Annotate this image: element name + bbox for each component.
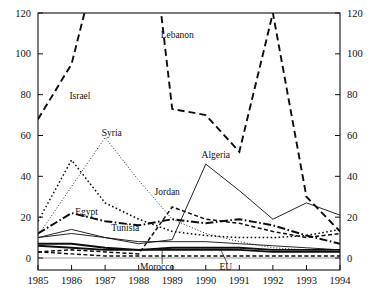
year-axis-tick-label: 1986 xyxy=(61,275,82,286)
right-axis-tick-label: 100 xyxy=(347,48,363,59)
left-axis-tick-label: 0 xyxy=(26,253,31,264)
left-axis-tick-label: 20 xyxy=(21,212,32,223)
series-label-jordan: Jordan xyxy=(155,187,181,197)
year-axis: 1985198619871988198919901991199219931994 xyxy=(28,265,352,286)
right-value-axis: 020406080100120 xyxy=(335,8,363,264)
series-label-tunisia: Tunisia xyxy=(111,223,140,233)
left-axis-tick-label: 100 xyxy=(15,48,31,59)
right-axis-tick-label: 0 xyxy=(347,253,352,264)
series-label-eu: EU xyxy=(220,262,233,272)
year-axis-tick-label: 1988 xyxy=(128,275,149,286)
year-axis-tick-label: 1992 xyxy=(262,275,283,286)
series-line-israel xyxy=(38,160,340,238)
series-line-egypt xyxy=(38,213,340,244)
series-label-egypt: Egypt xyxy=(75,207,98,217)
series-label-syria: Syria xyxy=(102,128,123,138)
year-axis-tick-label: 1994 xyxy=(330,275,352,286)
year-axis-tick-label: 1989 xyxy=(162,275,183,286)
series-label-lebanon: Lebanon xyxy=(161,30,194,40)
year-axis-tick-label: 1987 xyxy=(95,275,116,286)
left-axis-tick-label: 80 xyxy=(21,89,32,100)
year-axis-tick-label: 1993 xyxy=(296,275,317,286)
line-chart: 020406080100120 020406080100120 19851986… xyxy=(0,0,378,300)
right-axis-tick-label: 20 xyxy=(347,212,358,223)
left-axis-tick-label: 40 xyxy=(21,171,32,182)
right-axis-tick-label: 80 xyxy=(347,89,358,100)
left-axis-tick-label: 120 xyxy=(15,8,31,19)
series-label-morocco: Morocco xyxy=(140,262,175,272)
chart-canvas: 020406080100120 020406080100120 19851986… xyxy=(0,0,378,300)
right-axis-tick-label: 40 xyxy=(347,171,358,182)
year-axis-tick-label: 1985 xyxy=(28,275,49,286)
left-axis-tick-label: 60 xyxy=(21,130,32,141)
left-value-axis: 020406080100120 xyxy=(15,8,43,264)
series-label-algeria: Algeria xyxy=(202,150,231,160)
right-axis-tick-label: 120 xyxy=(347,8,363,19)
year-axis-tick-label: 1990 xyxy=(195,275,216,286)
right-axis-tick-label: 60 xyxy=(347,130,358,141)
series-label-israel: Israel xyxy=(69,91,90,101)
year-axis-tick-label: 1991 xyxy=(229,275,250,286)
